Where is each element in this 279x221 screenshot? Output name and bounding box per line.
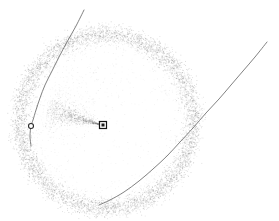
particle-scatter-canvas (0, 0, 279, 221)
scatter-plot-figure (0, 0, 279, 221)
